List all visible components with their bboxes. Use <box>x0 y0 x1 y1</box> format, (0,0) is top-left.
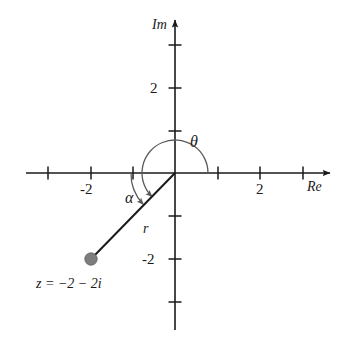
imaginary-axis <box>169 20 182 330</box>
theta-label: θ <box>190 134 198 150</box>
real-tick-label-2: 2 <box>256 182 264 197</box>
real-tick-label-minus2: -2 <box>80 182 93 197</box>
argand-plot-canvas <box>0 0 347 349</box>
point-z <box>85 253 97 265</box>
real-axis <box>26 167 330 180</box>
imaginary-tick-label-2: 2 <box>150 81 158 96</box>
real-axis-label: Re <box>307 180 322 194</box>
argand-diagram-figure: Im Re -2 2 2 -2 θ α r z = −2 − 2i <box>0 0 347 349</box>
imaginary-axis-label: Im <box>152 18 167 32</box>
imaginary-tick-label-minus2: -2 <box>142 252 155 267</box>
alpha-label: α <box>125 190 133 206</box>
radius-label: r <box>143 222 148 236</box>
radius-segment <box>92 173 175 258</box>
point-z-label: z = −2 − 2i <box>36 277 102 291</box>
